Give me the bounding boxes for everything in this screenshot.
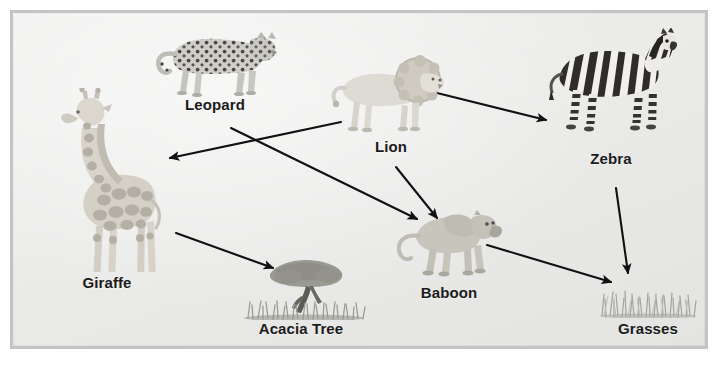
lion-icon	[330, 52, 448, 138]
node-label-giraffe: Giraffe	[48, 274, 166, 291]
node-zebra[interactable]: Zebra	[545, 28, 677, 166]
giraffe-icon	[48, 88, 166, 272]
node-label-zebra: Zebra	[545, 150, 677, 167]
node-label-acacia-tree: Acacia Tree	[230, 320, 372, 337]
node-baboon[interactable]: Baboon	[388, 198, 510, 308]
node-label-baboon: Baboon	[388, 284, 510, 301]
node-label-leopard: Leopard	[150, 96, 280, 113]
zebra-icon	[545, 28, 677, 140]
leopard-icon	[150, 22, 280, 98]
node-grasses[interactable]: Grasses	[592, 278, 704, 346]
grasses-icon	[592, 278, 704, 318]
node-lion[interactable]: Lion	[330, 52, 448, 160]
node-leopard[interactable]: Leopard	[150, 22, 280, 122]
node-label-grasses: Grasses	[592, 320, 704, 337]
baboon-icon	[388, 198, 510, 280]
food-web-diagram: Leopard	[0, 0, 720, 367]
node-giraffe[interactable]: Giraffe	[48, 88, 166, 300]
node-acacia[interactable]: Acacia Tree	[230, 258, 372, 346]
acacia-tree-icon	[230, 258, 372, 320]
node-label-lion: Lion	[348, 138, 434, 155]
